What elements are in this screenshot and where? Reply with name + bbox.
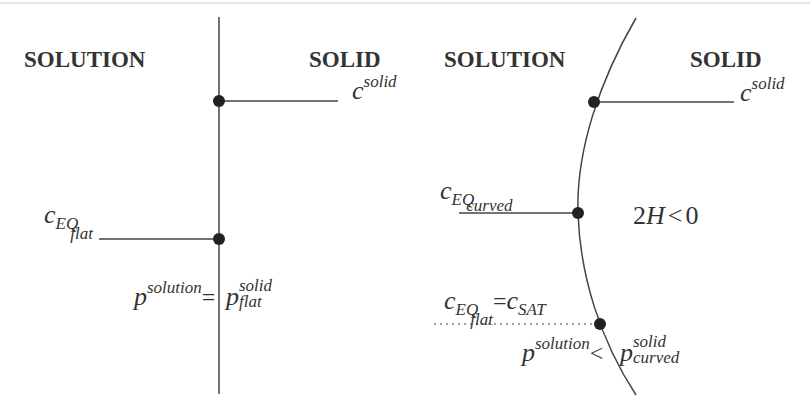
c-base: c xyxy=(440,176,452,205)
right-pressure-equation: psolution< xyxy=(522,340,603,366)
right-solid-point xyxy=(588,96,600,108)
rhs-sub: flat xyxy=(239,294,272,310)
left-solid-label: SOLID xyxy=(309,48,381,71)
right-c-solid-label: csolid xyxy=(740,80,785,106)
curvature-relation: < xyxy=(668,201,683,230)
rhs-base: p xyxy=(226,282,239,311)
right-solution-label: SOLUTION xyxy=(444,48,565,71)
c-sup: solid xyxy=(752,74,785,93)
c-eq-flat-sat-label: cEQflat=cSAT xyxy=(444,288,546,314)
equation-operator: = xyxy=(202,284,216,310)
c-subsub: curved xyxy=(466,196,512,215)
right-sat-point xyxy=(594,318,606,330)
rhs-sub: curved xyxy=(633,350,679,366)
left-solid-point xyxy=(213,95,225,107)
diagram-canvas: SOLUTION SOLID csolid cEQflat psolution=… xyxy=(0,0,810,419)
right-eq-curved-point xyxy=(572,207,584,219)
c-base: c xyxy=(44,200,56,229)
c-sup: solid xyxy=(364,72,397,91)
rhs-base: p xyxy=(620,338,633,367)
right-pressure-rhs: psolidcurved xyxy=(620,340,679,372)
equation-operator: < xyxy=(590,340,604,366)
rhs-base: c xyxy=(506,286,518,315)
lhs-sup: solution xyxy=(147,278,202,297)
lhs-base: p xyxy=(134,282,147,311)
c-base: c xyxy=(444,286,456,315)
curvature-var: H xyxy=(646,201,665,230)
c-subsub: flat xyxy=(70,224,93,243)
left-pressure-rhs: psolidflat xyxy=(226,284,272,316)
left-c-solid-label: csolid xyxy=(352,78,397,104)
left-pressure-equation: psolution= xyxy=(134,284,215,310)
right-solid-label: SOLID xyxy=(690,48,762,71)
c-subsub: flat xyxy=(470,310,493,329)
curvature-value: 0 xyxy=(685,201,698,230)
c-base: c xyxy=(740,78,752,107)
equation-operator: = xyxy=(493,288,507,314)
left-solution-label: SOLUTION xyxy=(24,48,145,71)
c-base: c xyxy=(352,76,364,105)
right-c-eq-curved-label: cEQcurved xyxy=(440,178,512,204)
rhs-sub: SAT xyxy=(518,300,546,319)
left-c-eq-flat-label: cEQflat xyxy=(44,202,93,228)
left-eq-flat-point xyxy=(213,233,225,245)
curvature-label: 2H<0 xyxy=(633,203,698,229)
lhs-base: p xyxy=(522,338,535,367)
curvature-prefix: 2 xyxy=(633,201,646,230)
lhs-sup: solution xyxy=(535,334,590,353)
